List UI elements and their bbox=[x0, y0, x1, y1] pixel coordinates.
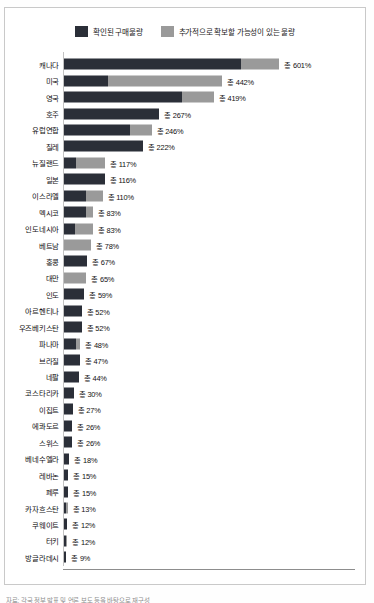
bar-segment-confirmed bbox=[63, 108, 159, 119]
category-label: 우즈베키스탄 bbox=[5, 322, 63, 333]
stacked-bar[interactable] bbox=[63, 420, 72, 431]
bar-row: 브라질총 47% bbox=[5, 352, 367, 368]
bar-segment-potential bbox=[182, 92, 214, 103]
category-label: 뉴질랜드 bbox=[5, 157, 63, 168]
category-label: 에콰도르 bbox=[5, 420, 63, 431]
bar-row: 칠레총 222% bbox=[5, 138, 367, 154]
bar-segment-confirmed bbox=[63, 174, 105, 185]
stacked-bar[interactable] bbox=[63, 141, 143, 152]
bar-row: 쿠웨이트총 12% bbox=[5, 516, 367, 532]
bar-segment-potential bbox=[75, 223, 93, 234]
chart-legend: 확인된 구매물량 추가적으로 확보할 가능성이 있는 물량 bbox=[5, 26, 365, 37]
category-label: 칠레 bbox=[5, 141, 63, 152]
stacked-bar[interactable] bbox=[63, 207, 93, 218]
category-label: 브라질 bbox=[5, 355, 63, 366]
stacked-bar[interactable] bbox=[63, 75, 222, 86]
stacked-bar[interactable] bbox=[63, 59, 279, 70]
stacked-bar[interactable] bbox=[63, 322, 82, 333]
category-label: 아르헨티나 bbox=[5, 305, 63, 316]
category-label: 카자흐스탄 bbox=[5, 503, 63, 514]
bar-track: 총 83% bbox=[63, 204, 367, 220]
bar-row: 홍콩총 67% bbox=[5, 253, 367, 269]
category-label: 이스라엘 bbox=[5, 190, 63, 201]
stacked-bar[interactable] bbox=[63, 223, 93, 234]
category-label: 유럽연합 bbox=[5, 124, 63, 135]
stacked-bar[interactable] bbox=[63, 272, 86, 283]
bar-segment-potential bbox=[76, 338, 80, 349]
bar-segment-confirmed bbox=[63, 420, 72, 431]
stacked-bar[interactable] bbox=[63, 371, 79, 382]
bar-segment-confirmed bbox=[63, 338, 76, 349]
stacked-bar[interactable] bbox=[63, 92, 214, 103]
x-axis-line bbox=[63, 569, 355, 570]
bar-row: 호주총 267% bbox=[5, 105, 367, 121]
stacked-bar[interactable] bbox=[63, 338, 80, 349]
bar-segment-potential bbox=[63, 240, 91, 251]
stacked-bar[interactable] bbox=[63, 404, 73, 415]
stacked-bar[interactable] bbox=[63, 174, 105, 185]
stacked-bar[interactable] bbox=[63, 437, 72, 448]
stacked-bar[interactable] bbox=[63, 124, 152, 135]
bar-value-label: 총 116% bbox=[110, 174, 136, 185]
bar-row: 대만총 65% bbox=[5, 270, 367, 286]
stacked-bar[interactable] bbox=[63, 289, 84, 300]
bar-value-label: 총 52% bbox=[87, 322, 110, 333]
category-label: 인도 bbox=[5, 289, 63, 300]
category-label: 베트남 bbox=[5, 240, 63, 251]
category-label: 일본 bbox=[5, 174, 63, 185]
bar-segment-potential bbox=[108, 75, 222, 86]
stacked-bar[interactable] bbox=[63, 108, 159, 119]
bar-value-label: 총 15% bbox=[73, 486, 96, 497]
source-note: 자료: 각국 정부 발표 및 언론 보도 등을 바탕으로 재구성 bbox=[6, 596, 306, 603]
bar-row: 우즈베키스탄총 52% bbox=[5, 319, 367, 335]
stacked-bar[interactable] bbox=[63, 157, 105, 168]
bar-row: 네팔총 44% bbox=[5, 368, 367, 384]
bar-value-label: 총 222% bbox=[148, 141, 175, 152]
bar-value-label: 총 601% bbox=[284, 59, 311, 70]
bar-segment-potential bbox=[76, 157, 105, 168]
bar-value-label: 총 12% bbox=[72, 519, 95, 530]
bar-segment-confirmed bbox=[63, 305, 82, 316]
category-label: 캐나다 bbox=[5, 59, 63, 70]
stacked-bar[interactable] bbox=[63, 240, 91, 251]
legend-swatch-confirmed bbox=[75, 26, 88, 37]
bar-track: 총 65% bbox=[63, 270, 367, 286]
plot-area: 캐나다총 601%미국총 442%영국총 419%호주총 267%유럽연합총 2… bbox=[5, 52, 367, 552]
bar-row: 베네수엘라총 18% bbox=[5, 451, 367, 467]
bar-segment-confirmed bbox=[63, 322, 82, 333]
bar-track: 총 27% bbox=[63, 401, 367, 417]
stacked-bar[interactable] bbox=[63, 355, 80, 366]
bar-value-label: 총 44% bbox=[84, 371, 107, 382]
bar-segment-confirmed bbox=[63, 207, 86, 218]
bar-track: 총 222% bbox=[63, 138, 367, 154]
legend-item-confirmed: 확인된 구매물량 bbox=[75, 26, 143, 37]
category-label: 네팔 bbox=[5, 371, 63, 382]
bar-track: 총 52% bbox=[63, 319, 367, 335]
bar-track: 총 12% bbox=[63, 516, 367, 532]
stacked-bar[interactable] bbox=[63, 387, 74, 398]
category-label: 파나마 bbox=[5, 338, 63, 349]
bar-segment-potential bbox=[63, 272, 86, 283]
chart-page: 확인된 구매물량 추가적으로 확보할 가능성이 있는 물량 캐나다총 601%미… bbox=[0, 0, 374, 603]
bar-track: 총 117% bbox=[63, 155, 367, 171]
stacked-bar[interactable] bbox=[63, 256, 87, 267]
bar-row: 터키총 12% bbox=[5, 533, 367, 549]
bar-row: 아르헨티나총 52% bbox=[5, 303, 367, 319]
y-axis-line bbox=[63, 52, 64, 566]
stacked-bar[interactable] bbox=[63, 190, 103, 201]
bar-segment-potential bbox=[130, 124, 152, 135]
stacked-bar[interactable] bbox=[63, 305, 82, 316]
bar-value-label: 총 26% bbox=[77, 437, 100, 448]
bar-segment-potential bbox=[66, 535, 68, 546]
bar-track: 총 12% bbox=[63, 533, 367, 549]
bar-value-label: 총 110% bbox=[108, 190, 134, 201]
bar-segment-confirmed bbox=[63, 157, 76, 168]
bar-track: 총 52% bbox=[63, 303, 367, 319]
bar-row: 이집트총 27% bbox=[5, 401, 367, 417]
bar-value-label: 총 59% bbox=[89, 289, 112, 300]
bar-value-label: 총 67% bbox=[92, 256, 115, 267]
bar-segment-confirmed bbox=[63, 387, 74, 398]
bar-segment-potential bbox=[241, 59, 280, 70]
bar-track: 총 442% bbox=[63, 72, 367, 88]
bar-value-label: 총 267% bbox=[164, 108, 191, 119]
